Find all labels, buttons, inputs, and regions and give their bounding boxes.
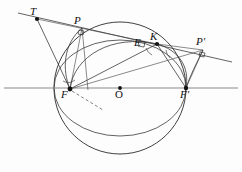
reflection-ray-dashed — [72, 91, 103, 110]
point-label-Fprime: F' — [180, 89, 189, 100]
segment-P-descending — [82, 28, 88, 90]
point-label-Pprime: P' — [196, 36, 205, 47]
geometry-canvas — [0, 0, 242, 172]
segment-F-K — [70, 44, 157, 89]
point-label-O: O — [115, 89, 123, 100]
point-marker-T — [35, 17, 39, 21]
point-marker-K — [155, 42, 159, 46]
point-label-T: T — [30, 6, 36, 17]
point-label-E: E — [134, 37, 141, 48]
angle-arc-at-F — [63, 80, 75, 83]
point-label-K: K — [150, 31, 157, 42]
geometry-figure: T P K E P' F O F' — [0, 0, 242, 172]
point-label-F: F — [61, 89, 68, 100]
point-label-P: P — [74, 15, 81, 26]
segment-T-F — [37, 19, 70, 89]
point-marker-F — [68, 87, 73, 92]
